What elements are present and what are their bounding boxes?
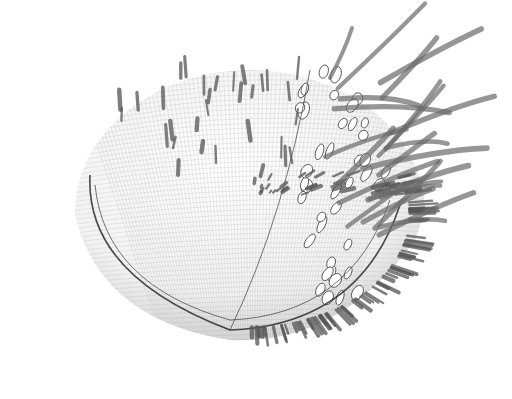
render-canvas (0, 0, 512, 399)
organism-wireframe-render (0, 0, 512, 399)
